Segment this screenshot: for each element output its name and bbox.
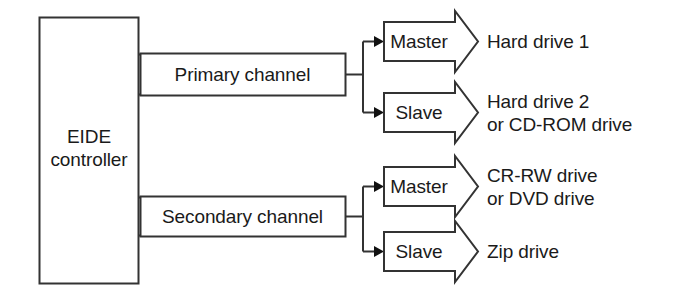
device-label-secondary-master: CR-RW drive or DVD drive	[487, 164, 597, 210]
secondary-slave-label: Slave	[383, 240, 455, 263]
primary-channel-label: Primary channel	[140, 63, 345, 86]
primary-branch-connector	[345, 42, 375, 113]
device-label-primary-master: Hard drive 1	[487, 30, 589, 53]
secondary-channel-label: Secondary channel	[140, 205, 345, 228]
primary-master-label: Master	[383, 30, 455, 53]
secondary-branch-connector	[345, 187, 375, 252]
device-label-secondary-slave: Zip drive	[487, 240, 559, 263]
eide-controller-label: EIDE controller	[39, 125, 139, 171]
primary-slave-label: Slave	[383, 101, 455, 124]
eide-topology-diagram: EIDE controller Primary channel Secondar…	[0, 0, 676, 306]
device-label-primary-slave: Hard drive 2 or CD-ROM drive	[487, 90, 632, 136]
secondary-master-label: Master	[383, 175, 455, 198]
